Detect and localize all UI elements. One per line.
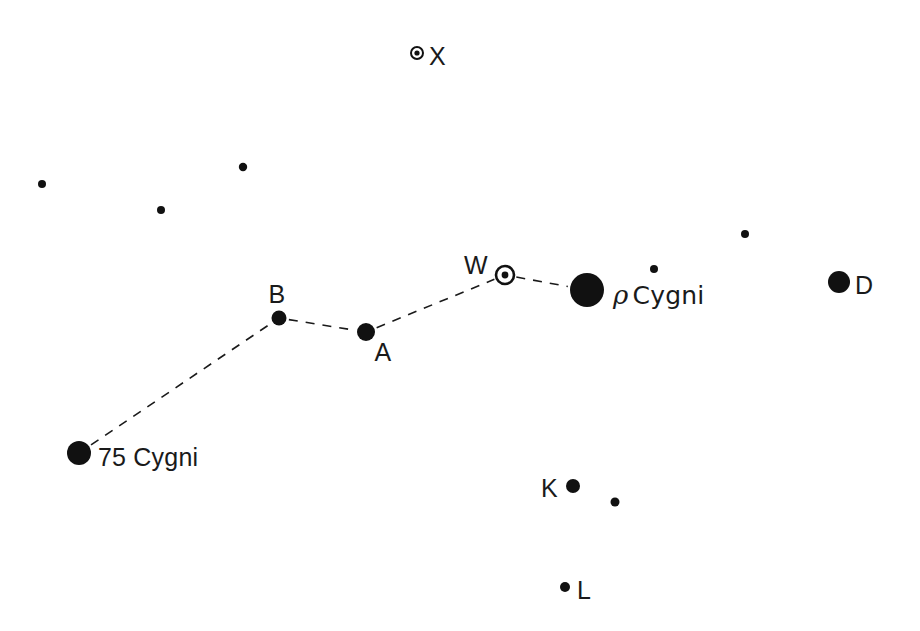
asterism-segment	[91, 324, 271, 445]
star-label-star-75-cygni: 75 Cygni	[98, 445, 198, 470]
star-marker-k-star[interactable]	[566, 479, 580, 493]
star-disc	[560, 582, 570, 592]
star-label-d-star: D	[855, 273, 873, 298]
star-marker-field-1[interactable]	[38, 180, 46, 188]
star-marker-b-star[interactable]	[272, 311, 287, 326]
star-disc	[566, 479, 580, 493]
star-chart: XWρCygniDBA75 CygniKL	[0, 0, 920, 631]
star-label-b-star: B	[269, 282, 286, 307]
star-marker-field-3[interactable]	[157, 206, 165, 214]
star-disc	[828, 271, 850, 293]
star-marker-field-5[interactable]	[650, 265, 658, 273]
star-disc	[67, 441, 91, 465]
star-field-canvas	[0, 0, 920, 631]
star-marker-w-star[interactable]	[496, 266, 514, 284]
star-disc	[272, 311, 287, 326]
star-disc	[239, 163, 247, 171]
star-disc	[650, 265, 658, 273]
star-label-k-star: K	[541, 476, 558, 501]
asterism-segment	[377, 279, 495, 327]
star-marker-rho-cygni[interactable]	[570, 273, 604, 307]
star-label-a-star: A	[375, 340, 392, 365]
asterism-segment	[516, 277, 568, 286]
star-marker-field-6[interactable]	[611, 498, 620, 507]
star-label-w-star: W	[464, 253, 488, 278]
star-marker-d-star[interactable]	[828, 271, 850, 293]
star-disc	[570, 273, 604, 307]
star-disc	[357, 323, 375, 341]
star-label-x-star: X	[429, 44, 446, 69]
rho-glyph: ρ	[613, 280, 633, 310]
asterism-lines	[91, 277, 568, 445]
star-label-l-star: L	[577, 578, 591, 603]
star-label-text: Cygni	[633, 281, 705, 310]
star-disc	[38, 180, 46, 188]
star-marker-l-star[interactable]	[560, 582, 570, 592]
star-marker-x-star[interactable]	[411, 47, 423, 59]
star-label-rho-cygni: ρCygni	[613, 282, 704, 308]
star-marker-a-star[interactable]	[357, 323, 375, 341]
star-disc	[741, 230, 749, 238]
star-disc	[157, 206, 165, 214]
star-disc	[611, 498, 620, 507]
star-markers	[38, 47, 850, 592]
asterism-segment	[289, 320, 355, 331]
star-marker-field-4[interactable]	[741, 230, 749, 238]
star-marker-field-2[interactable]	[239, 163, 247, 171]
star-center-dot	[414, 50, 419, 55]
star-marker-star-75-cygni[interactable]	[67, 441, 91, 465]
star-center-dot	[502, 272, 509, 279]
